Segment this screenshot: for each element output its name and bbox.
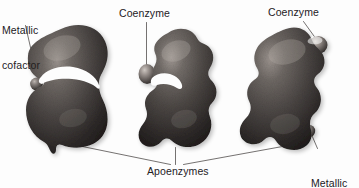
label-coenzyme-middle: Coenzyme bbox=[119, 8, 170, 20]
label-metallic-cofactor-right: Metallic cofactor bbox=[311, 155, 349, 188]
label-coenzyme-right: Coenzyme bbox=[268, 7, 319, 19]
enzyme-cofactor-diagram: Metallic cofactor Coenzyme Coenzyme Apoe… bbox=[0, 0, 359, 188]
leader-metallic-cofactor-right bbox=[312, 135, 318, 149]
leader-apoenzyme-left bbox=[73, 145, 171, 165]
label-metallic-cofactor-left-line2: cofactor bbox=[2, 60, 40, 72]
apoenzyme-right-group bbox=[240, 27, 328, 150]
label-apoenzymes: Apoenzymes bbox=[147, 166, 209, 178]
leader-apoenzyme-right bbox=[184, 147, 283, 165]
label-metallic-cofactor-left: Metallic cofactor bbox=[2, 2, 40, 94]
label-metallic-cofactor-right-line1: Metallic bbox=[311, 178, 349, 188]
apoenzyme-middle-group bbox=[139, 29, 217, 147]
diagram-canvas bbox=[0, 0, 359, 188]
label-metallic-cofactor-left-line1: Metallic bbox=[2, 25, 40, 37]
